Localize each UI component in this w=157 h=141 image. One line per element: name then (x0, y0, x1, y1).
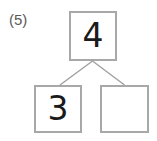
part-box-left-digit: 3 (48, 92, 69, 125)
connector-line-right (93, 61, 125, 85)
problem-number-label: (5) (9, 11, 27, 29)
worksheet-number-bond-problem: (5) 4 3 (0, 0, 157, 141)
whole-box-digit: 4 (83, 19, 104, 52)
connector-line-left (60, 61, 93, 85)
part-box-left[interactable]: 3 (34, 85, 82, 133)
part-box-right[interactable] (100, 85, 149, 133)
whole-box[interactable]: 4 (69, 11, 117, 61)
